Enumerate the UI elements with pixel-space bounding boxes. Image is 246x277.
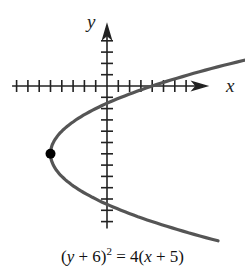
parabola-curve xyxy=(51,48,246,241)
parabola-plot: x y xyxy=(0,0,245,245)
x-axis-label: x xyxy=(225,75,235,96)
vertex-point xyxy=(46,149,56,159)
axes xyxy=(12,25,206,228)
equation-caption: (y + 6)2 = 4(x + 5) xyxy=(0,245,245,267)
y-axis-label: y xyxy=(85,11,96,32)
